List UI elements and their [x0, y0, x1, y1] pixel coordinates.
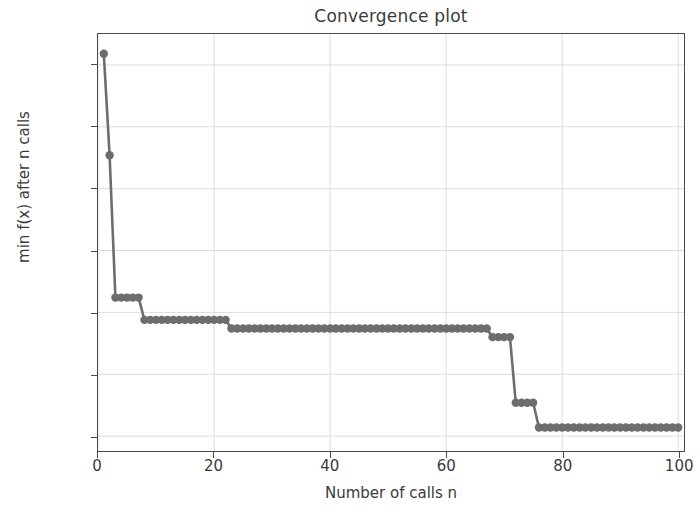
x-tick-label: 100: [649, 457, 700, 475]
x-axis-label: Number of calls n: [97, 484, 685, 502]
x-tick-label: 40: [300, 457, 360, 475]
x-tick-mark: [97, 452, 98, 458]
x-tick-mark: [679, 452, 680, 458]
x-tick-mark: [330, 452, 331, 458]
plot-canvas: [98, 34, 684, 451]
x-tick-mark: [563, 452, 564, 458]
gridlines: [98, 34, 684, 451]
series-line: [104, 54, 678, 428]
x-tick-label: 80: [533, 457, 593, 475]
data-point-marker: [506, 333, 514, 341]
data-point-marker: [529, 399, 537, 407]
x-tick-label: 20: [183, 457, 243, 475]
data-point-marker: [105, 151, 113, 159]
plot-area: [97, 33, 685, 452]
x-tick-label: 60: [416, 457, 476, 475]
convergence-plot-figure: Convergence plot min f(x) after n calls …: [0, 0, 700, 510]
x-tick-mark: [213, 452, 214, 458]
x-tick-label: 0: [67, 457, 127, 475]
y-axis-label: min f(x) after n calls: [15, 0, 33, 387]
chart-title: Convergence plot: [97, 6, 685, 26]
data-point-marker: [134, 293, 142, 301]
data-point-marker: [221, 316, 229, 324]
data-point-marker: [100, 50, 108, 58]
x-tick-mark: [446, 452, 447, 458]
data-point-marker: [483, 324, 491, 332]
data-point-marker: [674, 423, 682, 431]
